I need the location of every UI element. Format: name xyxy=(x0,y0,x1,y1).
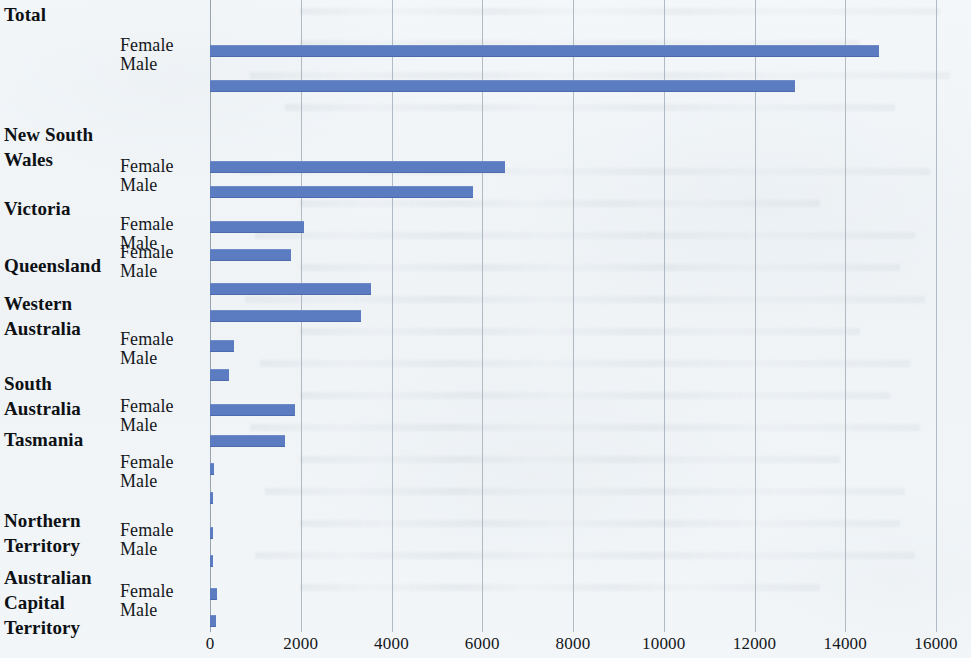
gridline-16000 xyxy=(936,0,937,632)
category-label-line: Western xyxy=(4,291,204,316)
x-tick-label-0: 0 xyxy=(206,634,215,654)
category-label-line: Australian xyxy=(4,565,204,590)
bar-queensland-male xyxy=(210,310,361,322)
x-tick-label-10000: 10000 xyxy=(642,634,686,654)
bar-tasmania-male xyxy=(210,492,213,504)
category-label-line: Australia xyxy=(4,396,204,421)
category-label-victoria: Victoria xyxy=(4,196,204,221)
bar-victoria-female xyxy=(210,221,304,233)
category-label-line: New South xyxy=(4,122,204,147)
category-label-northern-territory: NorthernTerritory xyxy=(4,508,204,558)
bar-northern-territory-male xyxy=(210,555,213,567)
x-tick-label-16000: 16000 xyxy=(914,634,958,654)
bar-south-australia-male xyxy=(210,435,285,447)
category-label-line: Territory xyxy=(4,533,204,558)
series-label-pair: FemaleMale xyxy=(120,36,208,74)
gridline-8000 xyxy=(573,0,574,632)
category-label-western-australia: WesternAustralia xyxy=(4,291,204,341)
series-label-male: Male xyxy=(120,472,208,491)
series-label-male: Male xyxy=(120,55,208,74)
x-tick-label-14000: 14000 xyxy=(824,634,868,654)
gridline-12000 xyxy=(755,0,756,632)
category-label-line: South xyxy=(4,371,204,396)
x-tick-label-8000: 8000 xyxy=(556,634,591,654)
bar-tasmania-female xyxy=(210,463,214,475)
bar-victoria-male xyxy=(210,249,291,261)
bar-western-australia-male xyxy=(210,369,229,381)
gridline-14000 xyxy=(845,0,846,632)
series-label-female: Female xyxy=(120,453,208,472)
bar-total-male xyxy=(210,80,795,92)
x-tick-label-2000: 2000 xyxy=(283,634,318,654)
x-axis-tick-labels: 0200040006000800010000120001400016000 xyxy=(0,634,971,658)
gridline-4000 xyxy=(392,0,393,632)
category-label-queensland: Queensland xyxy=(4,253,204,278)
category-label-tasmania: Tasmania xyxy=(4,427,204,452)
category-label-line: Total xyxy=(4,2,204,27)
series-label-male: Male xyxy=(120,349,208,368)
category-label-line: Capital xyxy=(4,590,204,615)
horizontal-bar-chart: FemaleMaleFemaleMaleFemaleMaleFemaleMale… xyxy=(0,0,971,658)
category-label-new-south-wales: New SouthWales xyxy=(4,122,204,172)
category-label-line: Wales xyxy=(4,147,204,172)
category-label-australian-capital-territory: AustralianCapitalTerritory xyxy=(4,565,204,640)
gridline-10000 xyxy=(664,0,665,632)
category-label-line: Australia xyxy=(4,316,204,341)
category-label-line: Tasmania xyxy=(4,427,204,452)
bar-northern-territory-female xyxy=(210,527,213,539)
x-tick-label-6000: 6000 xyxy=(465,634,500,654)
series-label-pair: FemaleMale xyxy=(120,453,208,491)
bar-western-australia-female xyxy=(210,340,234,352)
bar-new-south-wales-female xyxy=(210,161,505,173)
bar-queensland-female xyxy=(210,283,371,295)
gridline-6000 xyxy=(482,0,483,632)
category-label-total: Total xyxy=(4,2,204,27)
category-label-line: Victoria xyxy=(4,196,204,221)
x-tick-label-4000: 4000 xyxy=(374,634,409,654)
series-label-female: Female xyxy=(120,36,208,55)
category-label-line: Northern xyxy=(4,508,204,533)
category-label-south-australia: SouthAustralia xyxy=(4,371,204,421)
plot-area xyxy=(210,0,936,632)
bar-australian-capital-territory-female xyxy=(210,588,217,600)
bar-australian-capital-territory-male xyxy=(210,615,216,627)
series-label-male: Male xyxy=(120,176,208,195)
bar-total-female xyxy=(210,45,879,57)
bar-new-south-wales-male xyxy=(210,186,473,198)
category-label-line: Queensland xyxy=(4,253,204,278)
bar-south-australia-female xyxy=(210,404,295,416)
x-tick-label-12000: 12000 xyxy=(733,634,777,654)
